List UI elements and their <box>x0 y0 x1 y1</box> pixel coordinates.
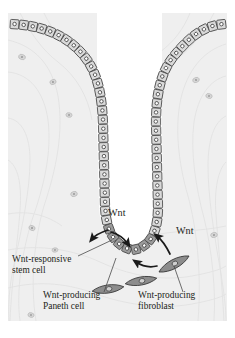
cell-nucleus <box>103 182 107 186</box>
cell-nucleus <box>155 220 159 224</box>
cell-nucleus <box>101 109 105 113</box>
epithelial-cell <box>153 181 162 190</box>
epithelial-cell <box>99 161 108 170</box>
epithelial-cell <box>100 170 109 179</box>
cell-nucleus <box>13 22 17 26</box>
cell-nucleus <box>155 165 159 169</box>
cell-nucleus <box>156 202 160 206</box>
figure-canvas: WntWnt Wnt-responsivestem cellWnt-produc… <box>0 0 235 338</box>
epithelial-cell <box>99 152 108 161</box>
cell-nucleus <box>156 193 160 197</box>
cell-nucleus <box>103 191 107 195</box>
epithelial-cell <box>99 143 108 152</box>
cell-nucleus <box>102 154 106 158</box>
cell-nucleus <box>158 83 162 87</box>
cell-nucleus <box>154 120 158 124</box>
wnt-paneth-label: Wnt <box>108 207 126 218</box>
cell-nucleus <box>103 173 107 177</box>
epithelial-cell <box>153 208 163 217</box>
epithelial-cell <box>153 172 162 181</box>
cell-nucleus <box>102 145 106 149</box>
epithelial-cell <box>100 188 109 197</box>
epithelial-cell <box>153 190 162 199</box>
cell-nucleus <box>101 118 105 122</box>
crypt-diagram: WntWnt Wnt-responsivestem cellWnt-produc… <box>0 0 235 338</box>
cell-nucleus <box>155 147 159 151</box>
cell-nucleus <box>155 156 159 160</box>
epithelial-cell <box>217 19 227 29</box>
cell-nucleus <box>99 99 103 103</box>
epithelial-cell <box>99 133 108 142</box>
stromal-cell <box>52 247 58 252</box>
epithelial-cell <box>97 106 107 115</box>
cell-nucleus <box>210 24 214 28</box>
epithelial-cell <box>100 197 109 206</box>
cell-nucleus <box>96 81 100 85</box>
epithelial-cell <box>98 115 108 124</box>
fibroblast-nucleus <box>139 278 146 284</box>
cell-nucleus <box>154 111 158 115</box>
cell-nucleus <box>31 24 35 28</box>
cell-nucleus <box>102 163 106 167</box>
cell-nucleus <box>39 26 43 30</box>
fibroblast-nucleus <box>106 286 112 291</box>
epithelial-cell <box>153 199 162 208</box>
epithelial-cell <box>152 99 162 109</box>
epithelial-cell <box>152 154 161 163</box>
cell-nucleus <box>155 175 159 179</box>
epithelial-cell <box>151 117 160 126</box>
epithelial-cell <box>151 108 161 117</box>
epithelial-cell <box>10 19 19 29</box>
cell-nucleus <box>102 127 106 131</box>
epithelial-cell <box>151 126 160 135</box>
epithelial-cell <box>207 21 218 32</box>
epithelial-cell <box>100 179 109 188</box>
cell-nucleus <box>22 23 26 27</box>
epithelial-cell <box>19 20 29 30</box>
epithelial-cell <box>153 89 163 99</box>
cell-nucleus <box>105 218 109 222</box>
cell-nucleus <box>103 200 107 204</box>
cell-nucleus <box>156 92 160 96</box>
cell-nucleus <box>155 101 159 105</box>
epithelial-cell <box>152 135 161 144</box>
epithelial-cell <box>152 217 163 227</box>
cell-nucleus <box>154 138 158 142</box>
cell-nucleus <box>219 22 223 26</box>
cell-nucleus <box>154 129 158 133</box>
wnt-fibroblast-label: Wnt <box>176 225 194 236</box>
epithelial-cell <box>98 124 107 133</box>
cell-nucleus <box>102 136 106 140</box>
epithelial-cell <box>152 163 161 172</box>
cell-nucleus <box>134 247 138 251</box>
cell-nucleus <box>98 90 102 94</box>
epithelial-cell <box>94 87 105 97</box>
epithelial-cell <box>96 96 106 106</box>
epithelial-cell <box>152 144 161 153</box>
cell-nucleus <box>156 184 160 188</box>
cell-nucleus <box>104 209 108 213</box>
cell-nucleus <box>156 211 160 215</box>
